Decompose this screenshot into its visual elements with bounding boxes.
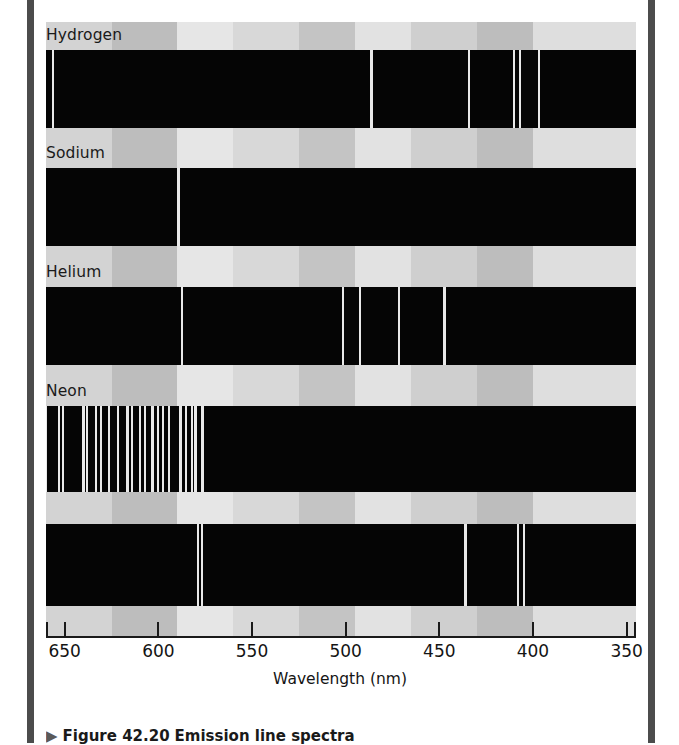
spectrum-row: Helium: [42, 263, 638, 365]
axis-tick: [251, 622, 253, 637]
emission-line: [95, 406, 97, 492]
caption-text: Emission line spectra: [175, 727, 355, 745]
emission-line: [100, 406, 102, 492]
spectrum-strip-neon: [46, 406, 636, 492]
spectrum-strip-sodium: [46, 168, 636, 246]
emission-line: [162, 406, 164, 492]
emission-line: [517, 524, 519, 606]
spectrum-label-hydrogen: Hydrogen: [46, 26, 122, 44]
axis-tick-label: 450: [423, 641, 455, 661]
emission-line: [185, 406, 187, 492]
emission-line: [151, 406, 154, 492]
emission-line: [513, 50, 515, 128]
axis-tick: [345, 622, 347, 637]
emission-line: [519, 50, 521, 128]
emission-line: [139, 406, 141, 492]
axis-end-cap: [634, 622, 636, 638]
axis-title: Wavelength (nm): [42, 670, 638, 688]
emission-line: [82, 406, 85, 492]
axis-end-cap: [46, 622, 48, 638]
spectrum-row: Sodium: [42, 144, 638, 246]
emission-spectra-figure: HydrogenSodiumHeliumNeon 650600550500450…: [42, 22, 638, 704]
spectra-rows: HydrogenSodiumHeliumNeon: [42, 22, 638, 704]
emission-line: [201, 406, 204, 492]
emission-line: [201, 524, 203, 606]
spectrum-row: Neon: [42, 382, 638, 492]
emission-line: [46, 406, 47, 492]
caption-number: Figure 42.20: [63, 727, 170, 745]
spectrum-strip-unlabeled: [46, 524, 636, 606]
spectrum-label-neon: Neon: [46, 382, 87, 400]
axis-tick-label: 350: [610, 641, 642, 661]
axis-baseline: [46, 636, 636, 638]
axis-tick: [64, 622, 66, 637]
spectrum-strip-helium: [46, 287, 636, 365]
figure-caption: ▶Figure 42.20Emission line spectra: [46, 727, 355, 745]
axis-tick-label: 500: [329, 641, 361, 661]
axis-tick: [626, 622, 628, 637]
axis-tick-label: 550: [236, 641, 268, 661]
axis-tick: [438, 622, 440, 637]
caption-marker-icon: ▶: [46, 727, 58, 745]
spectrum-row: [42, 500, 638, 606]
emission-line: [179, 406, 182, 492]
emission-line: [359, 287, 361, 365]
emission-line: [86, 406, 88, 492]
axis-tick: [157, 622, 159, 637]
axis-tick: [532, 622, 534, 637]
emission-line: [52, 50, 54, 128]
emission-line: [62, 406, 64, 492]
page-gutter-left: [27, 0, 34, 743]
axis-tick-label: 400: [517, 641, 549, 661]
emission-line: [197, 524, 199, 606]
emission-line: [131, 406, 133, 492]
emission-line: [181, 287, 183, 365]
emission-line: [370, 50, 373, 128]
page-gutter-right: [648, 0, 655, 743]
spectrum-row: Hydrogen: [42, 26, 638, 128]
emission-line: [468, 50, 470, 128]
emission-line: [464, 524, 467, 606]
emission-line: [342, 287, 344, 365]
emission-line: [157, 406, 159, 492]
spectrum-label-sodium: Sodium: [46, 144, 105, 162]
emission-line: [117, 406, 119, 492]
axis-tick-label: 650: [48, 641, 80, 661]
emission-line: [168, 406, 170, 492]
emission-line: [126, 406, 129, 492]
emission-line: [538, 50, 540, 128]
emission-line: [523, 524, 525, 606]
emission-line: [443, 287, 446, 365]
spectrum-strip-hydrogen: [46, 50, 636, 128]
emission-line: [108, 406, 110, 492]
axis-tick-label: 600: [142, 641, 174, 661]
emission-line: [58, 406, 60, 492]
emission-line: [178, 168, 180, 246]
emission-line: [194, 406, 197, 492]
spectrum-label-helium: Helium: [46, 263, 101, 281]
emission-line: [144, 406, 146, 492]
emission-line: [398, 287, 400, 365]
